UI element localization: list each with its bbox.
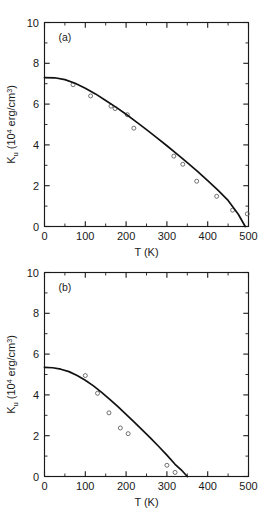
model-curve: [45, 78, 246, 227]
plot-frame: [45, 23, 249, 227]
y-tick-label: 0: [33, 471, 39, 483]
y-tick-label: 6: [33, 348, 39, 360]
x-tick-label: 400: [199, 230, 217, 242]
data-point: [132, 126, 136, 130]
plot-a-svg: 01002003004005000246810T (K)Ku (104 erg/…: [0, 0, 273, 265]
data-point: [215, 194, 219, 198]
y-tick-label: 4: [33, 389, 39, 401]
x-tick-label: 100: [76, 480, 94, 492]
data-point: [165, 463, 169, 467]
y-tick-label: 8: [33, 307, 39, 319]
y-tick-label: 0: [33, 221, 39, 233]
x-tick-label: 500: [239, 480, 257, 492]
x-tick-label: 300: [158, 230, 176, 242]
y-axis-title: Ku (104 erg/cm3): [5, 85, 20, 164]
data-point: [173, 470, 177, 474]
panel-label: (b): [59, 281, 72, 293]
data-point: [181, 162, 185, 166]
x-tick-label: 100: [76, 230, 94, 242]
data-point: [96, 391, 100, 395]
x-tick-label: 400: [199, 480, 217, 492]
data-point: [107, 411, 111, 415]
y-tick-label: 10: [27, 17, 39, 29]
y-tick-label: 6: [33, 98, 39, 110]
y-tick-label: 2: [33, 430, 39, 442]
data-point: [83, 374, 87, 378]
x-tick-label: 0: [41, 480, 47, 492]
data-point: [126, 432, 130, 436]
x-tick-label: 200: [117, 230, 135, 242]
y-tick-label: 2: [33, 180, 39, 192]
data-point: [195, 179, 199, 183]
y-tick-label: 10: [27, 267, 39, 279]
y-tick-label: 8: [33, 57, 39, 69]
x-tick-label: 300: [158, 480, 176, 492]
plot-b-svg: 01002003004005000246810T (K)Ku (104 erg/…: [0, 250, 273, 529]
x-axis-title: T (K): [134, 496, 158, 508]
panel-a: 01002003004005000246810T (K)Ku (104 erg/…: [0, 0, 273, 265]
y-axis-title: Ku (104 erg/cm3): [5, 335, 20, 414]
y-tick-label: 4: [33, 139, 39, 151]
model-curve: [45, 367, 188, 476]
data-point: [118, 426, 122, 430]
x-tick-label: 0: [41, 230, 47, 242]
data-point: [89, 94, 93, 98]
x-tick-label: 200: [117, 480, 135, 492]
data-point: [172, 154, 176, 158]
figure-container: 01002003004005000246810T (K)Ku (104 erg/…: [0, 0, 273, 529]
panel-b: 01002003004005000246810T (K)Ku (104 erg/…: [0, 250, 273, 529]
x-tick-label: 500: [239, 230, 257, 242]
panel-label: (a): [59, 31, 72, 43]
